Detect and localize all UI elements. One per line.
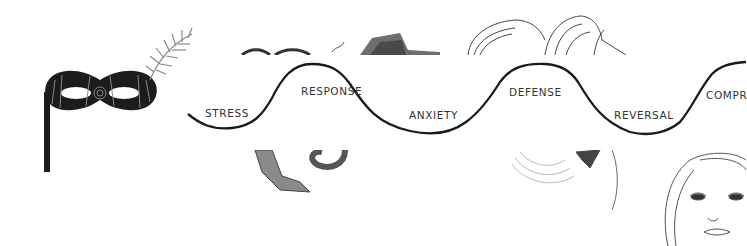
stage-label-anxiety: ANXIETY bbox=[409, 109, 458, 121]
stage-label-compr: COMPR bbox=[706, 89, 747, 101]
stage-label-response: RESPONSE bbox=[301, 85, 362, 97]
stage-label-reversal: REVERSAL bbox=[614, 109, 674, 121]
stage-label-defense: DEFENSE bbox=[509, 86, 562, 98]
stage-label-stress: STRESS bbox=[205, 107, 249, 119]
